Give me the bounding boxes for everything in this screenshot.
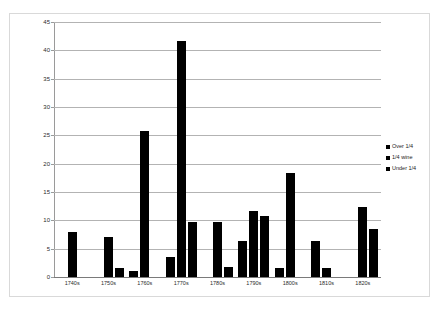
y-tick-mark <box>51 220 54 221</box>
y-tick-mark <box>51 135 54 136</box>
chart-legend: Over 1/41/4 wineUnder 1/4 <box>386 141 434 174</box>
plot-area <box>54 22 381 277</box>
bar <box>68 232 77 277</box>
y-tick-mark <box>51 249 54 250</box>
x-tick-label: 1740s <box>65 281 80 287</box>
legend-item: 1/4 wine <box>386 152 434 163</box>
legend-item: Over 1/4 <box>386 141 434 152</box>
x-tick-label: 1790s <box>246 281 261 287</box>
x-tick-label: 1760s <box>137 281 152 287</box>
bar-group <box>90 22 126 277</box>
y-tick-mark <box>51 192 54 193</box>
y-tick-label: 30 <box>43 104 50 110</box>
y-tick-label: 35 <box>43 76 50 82</box>
bar-group <box>54 22 90 277</box>
bar <box>188 222 197 277</box>
y-tick-label: 45 <box>43 19 50 25</box>
bar <box>129 271 138 277</box>
y-tick-label: 20 <box>43 161 50 167</box>
y-tick-mark <box>51 107 54 108</box>
legend-swatch <box>386 145 390 149</box>
bar <box>115 268 124 277</box>
y-tick-label: 25 <box>43 132 50 138</box>
bar <box>311 241 320 277</box>
legend-swatch <box>386 156 390 160</box>
bar <box>224 267 233 277</box>
legend-label: Under 1/4 <box>392 166 416 172</box>
bar-group <box>272 22 308 277</box>
y-tick-label: 10 <box>43 217 50 223</box>
bar-group <box>199 22 235 277</box>
bar <box>213 222 222 277</box>
bar-group <box>163 22 199 277</box>
y-tick-label: 0 <box>47 274 50 280</box>
bar <box>177 41 186 277</box>
x-tick-label: 1820s <box>355 281 370 287</box>
y-tick-label: 15 <box>43 189 50 195</box>
bar <box>249 211 258 277</box>
bar <box>369 229 378 277</box>
y-tick-label: 5 <box>47 246 50 252</box>
y-tick-mark <box>51 79 54 80</box>
y-axis-tick-labels: 051015202530354045 <box>22 0 50 309</box>
y-tick-mark <box>51 277 54 278</box>
bar-group <box>127 22 163 277</box>
x-tick-label: 1750s <box>101 281 116 287</box>
x-axis-line <box>54 277 381 278</box>
bar <box>238 241 247 277</box>
bar <box>104 237 113 277</box>
y-tick-mark <box>51 50 54 51</box>
x-tick-label: 1800s <box>283 281 298 287</box>
x-tick-label: 1810s <box>319 281 334 287</box>
y-tick-mark <box>51 22 54 23</box>
x-tick-label: 1770s <box>174 281 189 287</box>
bar <box>166 257 175 277</box>
bar <box>275 268 284 277</box>
chart-screenshot: 051015202530354045 1740s1750s1760s1770s1… <box>0 0 440 309</box>
legend-label: Over 1/4 <box>392 144 413 150</box>
bar-group <box>236 22 272 277</box>
bar-group <box>345 22 381 277</box>
x-tick-label: 1780s <box>210 281 225 287</box>
bar <box>358 207 367 277</box>
y-tick-mark <box>51 164 54 165</box>
bar <box>286 173 295 277</box>
bar-group <box>308 22 344 277</box>
bar <box>322 268 331 277</box>
bar <box>260 216 269 277</box>
bar <box>140 131 149 277</box>
y-tick-label: 40 <box>43 47 50 53</box>
legend-swatch <box>386 167 390 171</box>
legend-item: Under 1/4 <box>386 163 434 174</box>
legend-label: 1/4 wine <box>392 155 413 161</box>
